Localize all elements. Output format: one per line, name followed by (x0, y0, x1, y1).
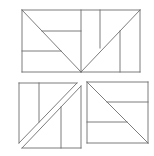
upper-left-triangle-line (19, 83, 77, 143)
top-rectangle-line (22, 10, 81, 72)
diagram-canvas (0, 0, 154, 156)
lower-right-triangle-line (22, 86, 81, 148)
bottom-right-square-figure (87, 82, 148, 143)
bottom-right-square-line (87, 82, 148, 143)
bottom-left-split-square-figure (19, 83, 81, 148)
top-rectangle-line (81, 10, 140, 72)
top-rectangle-figure (22, 10, 140, 72)
